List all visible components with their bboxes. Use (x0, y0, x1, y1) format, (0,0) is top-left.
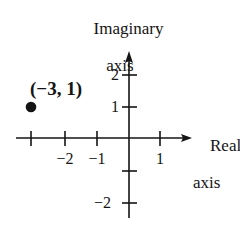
complex-plane-figure: Imaginary axis Real axis (−3, 1) −2 −1 1… (0, 0, 240, 231)
y-tick-label-2: 2 (93, 66, 119, 84)
y-tick-label-neg2: −2 (85, 194, 111, 212)
x-tick-label-neg1: −1 (82, 150, 112, 168)
imaginary-axis-title-line2: axis (0, 57, 240, 75)
real-axis-title-line2: axis (193, 174, 240, 192)
real-axis-title: Real axis (193, 119, 240, 229)
y-tick-label-1: 1 (93, 98, 119, 116)
x-tick-label-neg2: −2 (50, 150, 80, 168)
data-point-label: (−3, 1) (12, 79, 100, 100)
real-axis-title-line1: Real (210, 136, 240, 155)
imaginary-axis-title-line1: Imaginary (94, 19, 164, 38)
real-axis-line (16, 134, 192, 142)
x-tick-label-1: 1 (145, 150, 175, 168)
